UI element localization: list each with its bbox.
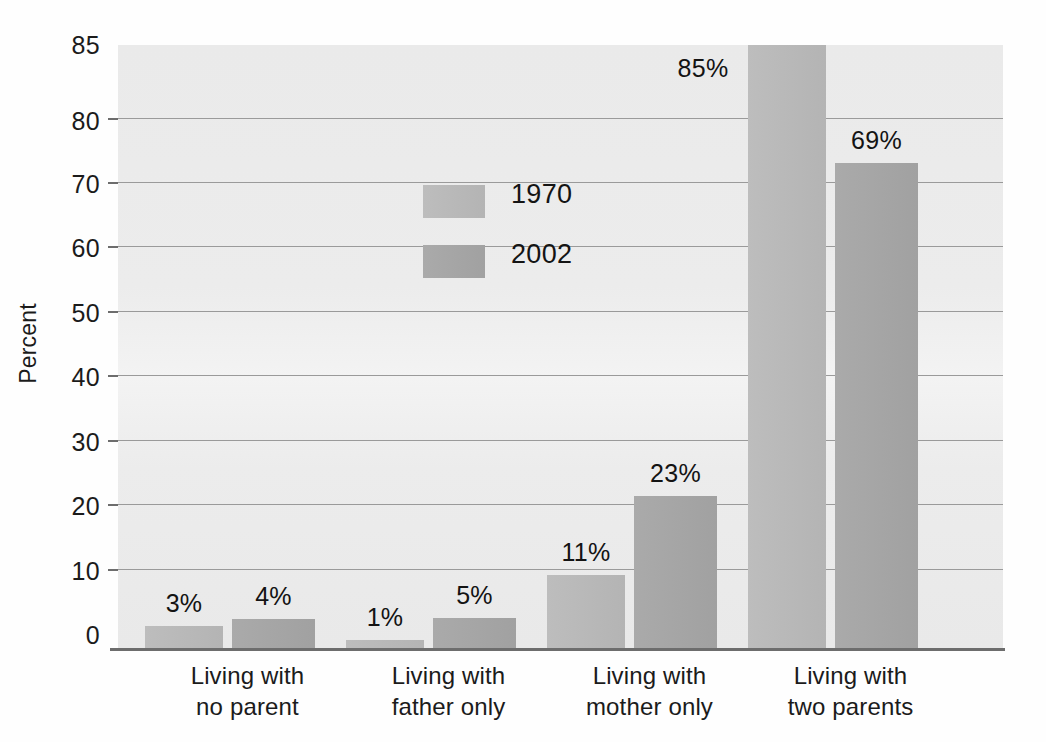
y-tick-mark-10 — [108, 569, 118, 571]
bar-1970-mother-only[interactable] — [547, 575, 625, 648]
category-label-father-only-line1: Living with — [341, 660, 556, 691]
x-axis-line — [110, 648, 1005, 651]
bar-label-1970-two-parents: 85% — [662, 54, 744, 83]
y-tick-label-50: 50 — [8, 299, 100, 328]
bar-1970-father-only[interactable] — [346, 640, 424, 648]
chart-figure: Percent 85 80 70 60 50 40 30 20 10 0 — [0, 0, 1046, 742]
y-tick-label-80: 80 — [8, 107, 100, 136]
category-label-two-parents: Living with two parents — [743, 660, 958, 722]
y-tick-mark-60 — [108, 246, 118, 248]
legend-swatch-1970 — [423, 185, 485, 218]
bar-label-2002-two-parents: 69% — [835, 126, 918, 155]
bar-2002-mother-only[interactable] — [634, 496, 717, 648]
legend-label-1970: 1970 — [511, 179, 572, 210]
bar-1970-two-parents[interactable] — [748, 45, 826, 648]
category-label-two-parents-line1: Living with — [743, 660, 958, 691]
legend-swatch-2002 — [423, 245, 485, 278]
y-tick-label-85: 85 — [8, 31, 100, 60]
y-tick-label-20: 20 — [8, 492, 100, 521]
bar-label-1970-mother-only: 11% — [547, 538, 625, 567]
bar-2002-father-only[interactable] — [433, 618, 516, 648]
plot-area: 1970 2002 3% 4% 1% 5% 11% 23% 85% 69% — [118, 45, 1003, 648]
y-tick-mark-30 — [108, 440, 118, 442]
category-label-father-only: Living with father only — [341, 660, 556, 722]
category-label-no-parent: Living with no parent — [140, 660, 355, 722]
gridline-80 — [118, 118, 1003, 119]
bar-2002-no-parent[interactable] — [232, 619, 315, 648]
bar-label-2002-father-only: 5% — [433, 581, 516, 610]
category-label-two-parents-line2: two parents — [743, 691, 958, 722]
y-tick-label-40: 40 — [8, 363, 100, 392]
y-axis: Percent 85 80 70 60 50 40 30 20 10 0 — [0, 0, 118, 742]
bar-label-1970-father-only: 1% — [346, 603, 424, 632]
y-tick-label-70: 70 — [8, 170, 100, 199]
category-label-mother-only-line1: Living with — [542, 660, 757, 691]
bar-label-2002-no-parent: 4% — [232, 582, 315, 611]
y-tick-label-0: 0 — [8, 621, 100, 650]
y-tick-mark-20 — [108, 504, 118, 506]
y-tick-mark-50 — [108, 311, 118, 313]
bar-2002-two-parents[interactable] — [835, 163, 918, 648]
category-label-no-parent-line2: no parent — [140, 691, 355, 722]
y-tick-mark-40 — [108, 375, 118, 377]
y-axis-title: Percent — [15, 254, 42, 434]
category-label-mother-only: Living with mother only — [542, 660, 757, 722]
category-label-mother-only-line2: mother only — [542, 691, 757, 722]
y-tick-label-30: 30 — [8, 428, 100, 457]
y-tick-label-10: 10 — [8, 557, 100, 586]
y-tick-mark-70 — [108, 182, 118, 184]
bar-1970-no-parent[interactable] — [145, 626, 223, 648]
category-label-no-parent-line1: Living with — [140, 660, 355, 691]
legend-label-2002: 2002 — [511, 239, 572, 270]
bar-label-2002-mother-only: 23% — [634, 459, 717, 488]
y-tick-label-60: 60 — [8, 234, 100, 263]
category-label-father-only-line2: father only — [341, 691, 556, 722]
y-tick-mark-80 — [108, 118, 118, 120]
bar-label-1970-no-parent: 3% — [145, 589, 223, 618]
